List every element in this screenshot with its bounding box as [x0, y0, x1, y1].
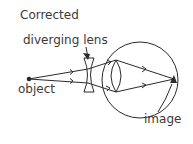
image-point: [170, 75, 177, 83]
diverging-lens: [84, 58, 94, 92]
title-label: Corrected: [20, 9, 79, 21]
lens-label: diverging lens: [23, 34, 108, 46]
image-label: image: [144, 113, 181, 125]
object-label: object: [18, 83, 55, 95]
eye-outline: [102, 42, 178, 118]
eye-lens: [111, 60, 121, 92]
